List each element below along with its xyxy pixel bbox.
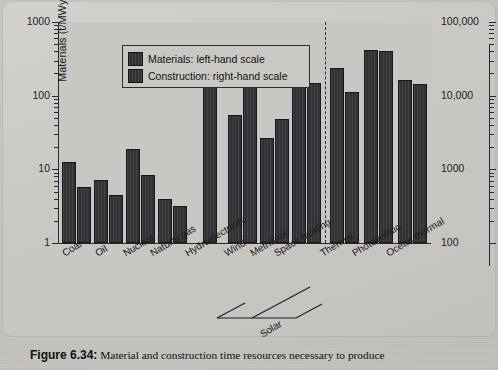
y-axis-right-tick bbox=[489, 169, 496, 170]
y-axis-right-tick bbox=[489, 38, 494, 39]
bar-construction-photovoltaic bbox=[379, 51, 393, 243]
y-axis-right-tick bbox=[489, 186, 494, 187]
bar-construction-wind bbox=[243, 75, 257, 243]
y-axis-left-tick bbox=[54, 73, 59, 74]
y-axis-right-tick-label: 100 bbox=[441, 236, 459, 248]
category-group-divider bbox=[325, 22, 326, 243]
y-axis-left-tick bbox=[52, 243, 59, 244]
y-axis-left-tick bbox=[54, 25, 59, 26]
bar-materials-space-heating bbox=[292, 64, 306, 243]
bar-materials-photovoltaic bbox=[364, 50, 378, 243]
y-axis-left-tick bbox=[52, 96, 59, 97]
y-axis-left-tick bbox=[54, 181, 59, 182]
y-axis-left-tick bbox=[54, 38, 59, 39]
y-axis-left-tick bbox=[52, 22, 59, 23]
y-axis-right-tick bbox=[489, 125, 494, 126]
y-axis-right-tick bbox=[489, 99, 494, 100]
y-axis-left-tick bbox=[54, 173, 59, 174]
bar-construction-methanol bbox=[275, 119, 289, 244]
y-axis-left-tick bbox=[54, 103, 59, 104]
y-axis-left-title: Materials (t/MWye) bbox=[56, 0, 70, 82]
y-axis-left-tick bbox=[54, 107, 59, 108]
y-axis-right-tick bbox=[489, 134, 494, 135]
y-axis-right-tick bbox=[489, 51, 494, 52]
legend-label-construction: Construction: right-hand scale bbox=[148, 70, 288, 82]
y-axis-right-tick bbox=[489, 33, 494, 34]
y-axis-right-tick bbox=[489, 192, 494, 193]
y-axis-right-line bbox=[489, 44, 490, 266]
bar-construction-hydroelectricity bbox=[203, 68, 217, 243]
y-axis-right-tick bbox=[489, 221, 494, 222]
legend-label-materials: Materials: left-hand scale bbox=[148, 53, 265, 65]
y-axis-left-tick bbox=[54, 112, 59, 113]
y-axis-right-tick bbox=[489, 44, 494, 45]
figure-caption: Figure 6.34: Material and construction t… bbox=[30, 349, 482, 362]
y-axis-right-tick bbox=[489, 22, 496, 23]
y-axis-right-tick-label: 1000 bbox=[441, 162, 464, 174]
y-axis-left-tick bbox=[54, 221, 59, 222]
bar-construction-thermal bbox=[345, 92, 359, 243]
y-axis-right-tick bbox=[489, 181, 494, 182]
y-axis-left-tick bbox=[54, 99, 59, 100]
y-axis-right-tick bbox=[489, 29, 494, 30]
y-axis-left-tick bbox=[54, 176, 59, 177]
y-axis-left-tick-label: 1000 bbox=[10, 15, 50, 27]
bar-materials-ocean-thermal bbox=[398, 80, 412, 243]
y-axis-right-tick bbox=[489, 173, 494, 174]
bar-materials-oil bbox=[94, 180, 108, 243]
y-axis-left-tick-label: 10 bbox=[10, 162, 50, 174]
y-axis-left-tick bbox=[54, 199, 59, 200]
legend-swatch-construction-icon bbox=[128, 69, 143, 83]
bar-construction-ocean-thermal bbox=[413, 84, 427, 243]
y-axis-left-tick bbox=[54, 192, 59, 193]
y-axis-right-tick bbox=[489, 199, 494, 200]
y-axis-left-tick-label: 1 bbox=[10, 236, 50, 248]
y-axis-left-tick bbox=[54, 44, 59, 45]
y-axis-right-tick bbox=[489, 147, 494, 148]
y-axis-left-tick bbox=[54, 208, 59, 209]
y-axis-left-tick bbox=[52, 169, 59, 170]
y-axis-left-tick bbox=[54, 61, 59, 62]
bar-materials-thermal bbox=[330, 68, 344, 243]
y-axis-left-title-text: Materials (t/MWy bbox=[56, 0, 68, 82]
bar-materials-coal bbox=[62, 162, 76, 243]
legend-swatch-materials-icon bbox=[128, 52, 143, 66]
y-axis-right-tick-label: 100,000 bbox=[441, 15, 479, 27]
chart-plot-area: Materials (t/MWye) Construction (person-… bbox=[58, 22, 431, 244]
y-axis-left-tick bbox=[54, 134, 59, 135]
y-axis-right-tick bbox=[489, 176, 494, 177]
bar-materials-nuclear bbox=[126, 149, 140, 243]
y-axis-left-tick bbox=[54, 29, 59, 30]
chart-legend: Materials: left-hand scale Construction:… bbox=[122, 45, 310, 88]
y-axis-right-tick bbox=[489, 25, 494, 26]
y-axis-right-tick bbox=[489, 103, 494, 104]
bar-construction-oil bbox=[109, 195, 123, 243]
y-axis-left-tick bbox=[54, 51, 59, 52]
y-axis-left-tick bbox=[54, 118, 59, 119]
bar-construction-coal bbox=[77, 187, 91, 243]
y-axis-right-tick bbox=[489, 243, 496, 244]
figure-caption-text: Material and construction time resources… bbox=[100, 349, 384, 361]
legend-item-construction: Construction: right-hand scale bbox=[128, 67, 304, 84]
y-axis-right-tick bbox=[489, 61, 494, 62]
y-axis-left-tick bbox=[54, 33, 59, 34]
y-axis-right-tick bbox=[489, 107, 494, 108]
y-axis-left-tick bbox=[54, 147, 59, 148]
bar-construction-space-heating bbox=[307, 83, 321, 243]
y-axis-left-tick-label: 100 bbox=[10, 89, 50, 101]
figure-caption-label: Figure 6.34: bbox=[30, 348, 97, 362]
book-page: Materials (t/MWye) Construction (person-… bbox=[0, 0, 498, 370]
y-axis-right-tick-label: 10,000 bbox=[441, 89, 473, 101]
y-axis-right-tick bbox=[489, 96, 496, 97]
bar-materials-methanol bbox=[260, 138, 274, 243]
y-axis-left-tick bbox=[54, 125, 59, 126]
y-axis-left-tick bbox=[54, 186, 59, 187]
legend-item-materials: Materials: left-hand scale bbox=[128, 50, 304, 67]
y-axis-right-tick bbox=[489, 118, 494, 119]
y-axis-right-tick bbox=[489, 73, 494, 74]
y-axis-right-tick bbox=[489, 112, 494, 113]
y-axis-right-tick bbox=[489, 208, 494, 209]
